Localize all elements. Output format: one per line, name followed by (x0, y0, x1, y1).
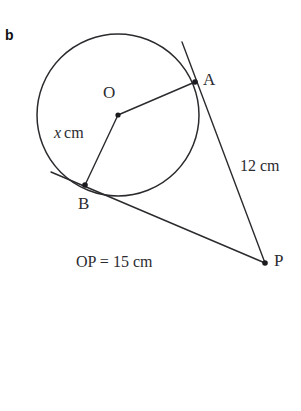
point-dot-B (82, 182, 88, 188)
point-dot-O (115, 112, 120, 117)
tangent-line-A (182, 42, 265, 263)
geometry-figure: b O A B P xcm 12 cm OP = 15 cm (0, 0, 301, 411)
segment-OB (85, 115, 118, 185)
radius-symbol: x (54, 124, 61, 141)
radius-label: xcm (54, 125, 84, 141)
point-dot-P (262, 260, 268, 266)
radius-unit: cm (64, 124, 84, 141)
segment-OA (118, 82, 195, 115)
tangent-length-label: 12 cm (240, 158, 280, 174)
op-length-label: OP = 15 cm (76, 254, 152, 270)
diagram-canvas (0, 0, 301, 411)
point-label-P: P (274, 252, 283, 269)
point-label-A: A (203, 71, 215, 88)
point-label-B: B (78, 195, 89, 212)
part-label: b (5, 28, 14, 42)
point-dot-A (192, 79, 198, 85)
point-label-O: O (103, 84, 115, 101)
